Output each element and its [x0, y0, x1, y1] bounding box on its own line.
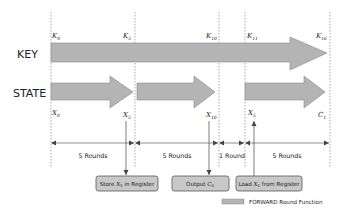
state-labels: X0 X5 X10 X5 C1: [51, 109, 326, 120]
key-labels: K0 K5 K10 K11 K16: [51, 32, 327, 41]
interval-label-3: 1 Round: [219, 152, 245, 159]
box-connectors: [126, 121, 254, 177]
round-schedule-diagram: KEY STATE K0 K5 K10 K11 K16 X0 X5 X10 X5…: [0, 0, 346, 217]
state-label-x0: X0: [51, 109, 60, 118]
key-label-k5: K5: [122, 32, 131, 41]
state-arrow-3: [245, 76, 325, 108]
action-box-output: Output C0: [172, 176, 229, 191]
state-arrow-2: [137, 76, 215, 108]
state-arrow-1: [51, 76, 133, 108]
interval-label-2: 5 Rounds: [162, 152, 191, 159]
legend-swatch: [222, 199, 244, 204]
action-box-load: Load X5 from Register: [236, 176, 302, 191]
state-label-x5-load: X5: [247, 109, 256, 118]
key-arrow: [51, 37, 327, 70]
key-row-label: KEY: [17, 48, 38, 61]
key-label-k16: K16: [315, 32, 327, 41]
interval-label-4: 5 Rounds: [272, 152, 301, 159]
key-label-k0: K0: [51, 32, 60, 41]
interval-label-1: 5 Rounds: [78, 152, 107, 159]
key-label-k10: K10: [205, 32, 217, 41]
legend: FORWARD Round Function: [222, 199, 323, 205]
state-label-x5: X5: [122, 111, 131, 120]
action-box-store: Store X5 in Register: [96, 176, 158, 191]
legend-label: FORWARD Round Function: [249, 199, 323, 205]
interval-labels: 5 Rounds 5 Rounds 1 Round 5 Rounds: [78, 152, 301, 159]
state-label-c1: C1: [318, 111, 326, 120]
state-row-label: STATE: [13, 87, 46, 100]
key-label-k11: K11: [246, 32, 258, 41]
state-label-x10: X10: [205, 111, 217, 120]
